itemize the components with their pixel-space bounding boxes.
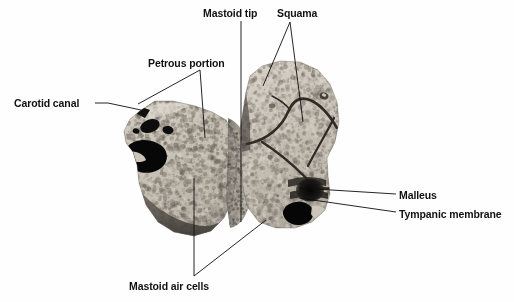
label-carotid-canal: Carotid canal [14,97,79,109]
label-mastoid-air-cells: Mastoid air cells [129,280,209,292]
label-petrous-portion: Petrous portion [148,57,225,69]
label-squama: Squama [277,7,317,19]
figure-root: Carotid canal Petrous portion Mastoid ti… [0,0,514,302]
label-malleus: Malleus [399,189,437,201]
label-mastoid-tip: Mastoid tip [203,7,257,19]
label-tympanic-membrane: Tympanic membrane [399,208,502,220]
specimen-photograph [0,0,514,302]
